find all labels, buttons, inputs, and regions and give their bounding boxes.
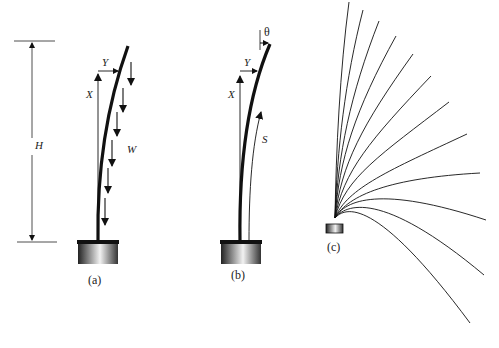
height-label: H [34,139,44,151]
x-axis-label-b: X [227,88,236,100]
pole-base-a [77,240,119,264]
figure-canvas: H X Y W (a) [0,0,499,348]
panel-a: H X Y W (a) [14,41,137,287]
caption-c: (c) [327,240,340,254]
deflected-pole-a [98,46,128,241]
theta-label: θ [264,25,270,39]
caption-a: (a) [88,273,101,287]
panel-c: (c) [326,2,486,323]
x-axis-label-a: X [85,88,94,100]
caption-b: (b) [231,268,245,282]
arc-length-arrow [249,112,261,241]
panel-b: θ X Y S (b) [220,25,270,282]
arc-length-label: S [262,133,268,145]
deflection-curve-family [335,2,486,323]
pole-base-c [326,224,343,233]
height-dimension: H [14,41,57,242]
y-axis-label-b: Y [244,56,252,68]
pole-base-b [220,240,262,264]
y-axis-label-a: Y [102,56,110,68]
load-label: W [127,143,137,155]
